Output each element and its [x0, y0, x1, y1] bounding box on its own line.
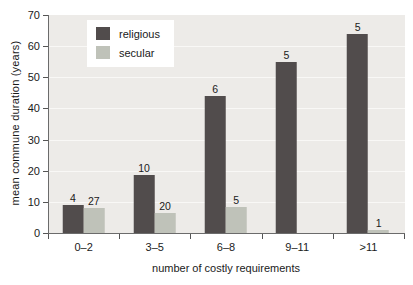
bar-chart-figure: mean commune duration (years) 4271020655…	[0, 0, 413, 285]
religious-bar-slot: 10	[134, 163, 155, 233]
bar-group-3: 65	[191, 15, 262, 233]
x-tick-2	[190, 234, 191, 239]
x-tick-5	[404, 234, 405, 239]
bar-pair: 427	[62, 193, 104, 233]
y-tick-label-30: 30	[12, 135, 40, 146]
y-tick-label-70: 70	[12, 10, 40, 21]
y-tick-60	[43, 46, 48, 47]
bar-pair: 65	[205, 84, 247, 233]
religious-bar	[62, 205, 83, 233]
secular-bar	[155, 213, 176, 233]
religious-bar-slot: 5	[347, 22, 368, 233]
secular-bar	[368, 230, 389, 233]
y-axis-title: mean commune duration (years)	[9, 23, 21, 223]
y-tick-label-10: 10	[12, 197, 40, 208]
x-axis-title: number of costly requirements	[48, 262, 404, 274]
religious-bar-value-label: 6	[212, 84, 218, 95]
x-tick-3	[262, 234, 263, 239]
legend: religious secular	[87, 20, 174, 67]
y-tick-label-40: 40	[12, 103, 40, 114]
religious-bar-value-label: 5	[284, 50, 290, 61]
religious-bar-value-label: 10	[138, 163, 150, 174]
secular-bar	[226, 207, 247, 233]
bar-pair: 51	[347, 22, 389, 233]
religious-bar-slot: 6	[205, 84, 226, 233]
religious-bar-slot: 5	[276, 50, 297, 233]
x-tick-label-3: 6–8	[190, 241, 261, 253]
secular-bar-value-label: 20	[159, 201, 171, 212]
bar-pair: 5	[276, 50, 318, 233]
x-tick-0	[48, 234, 49, 239]
religious-bar	[276, 62, 297, 233]
religious-bar-value-label: 5	[355, 22, 361, 33]
secular-bar-slot: 20	[155, 201, 176, 233]
religious-bar-slot: 4	[62, 193, 83, 233]
y-tick-label-60: 60	[12, 41, 40, 52]
y-tick-label-0: 0	[12, 228, 40, 239]
x-tick-label-4: 9–11	[262, 241, 333, 253]
bar-group-5: 51	[334, 15, 405, 233]
legend-label-religious: religious	[119, 28, 160, 40]
y-tick-20	[43, 171, 48, 172]
secular-swatch-icon	[96, 46, 110, 59]
secular-bar-slot: 1	[368, 218, 389, 233]
legend-label-secular: secular	[119, 47, 154, 59]
x-tick-label-2: 3–5	[119, 241, 190, 253]
legend-item-religious: religious	[96, 27, 160, 40]
x-tick-4	[333, 234, 334, 239]
legend-item-secular: secular	[96, 46, 160, 59]
bar-group-4: 5	[263, 15, 334, 233]
y-tick-40	[43, 108, 48, 109]
secular-bar	[83, 208, 104, 233]
bar-pair: 1020	[134, 163, 176, 233]
y-tick-label-50: 50	[12, 72, 40, 83]
religious-bar	[134, 175, 155, 233]
religious-bar	[347, 34, 368, 233]
x-tick-label-5: >11	[333, 241, 404, 253]
y-tick-70	[43, 15, 48, 16]
secular-bar-value-label: 1	[376, 218, 382, 229]
x-tick-label-1: 0–2	[48, 241, 119, 253]
y-tick-10	[43, 202, 48, 203]
secular-bar-slot: 5	[226, 195, 247, 233]
y-tick-30	[43, 140, 48, 141]
y-tick-label-20: 20	[12, 166, 40, 177]
secular-bar-slot: 27	[83, 196, 104, 233]
secular-bar-value-label: 27	[88, 196, 100, 207]
religious-bar	[205, 96, 226, 233]
x-tick-1	[119, 234, 120, 239]
religious-bar-value-label: 4	[70, 193, 76, 204]
religious-swatch-icon	[96, 27, 110, 40]
secular-bar-value-label: 5	[233, 195, 239, 206]
y-tick-50	[43, 77, 48, 78]
